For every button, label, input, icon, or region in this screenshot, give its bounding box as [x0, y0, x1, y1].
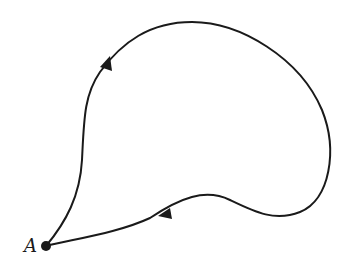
- closed-curve-diagram: A: [0, 0, 356, 279]
- point-a-dot: [41, 241, 51, 251]
- point-a-label: A: [24, 235, 37, 256]
- closed-path: [46, 22, 330, 246]
- curve-svg: [0, 0, 356, 279]
